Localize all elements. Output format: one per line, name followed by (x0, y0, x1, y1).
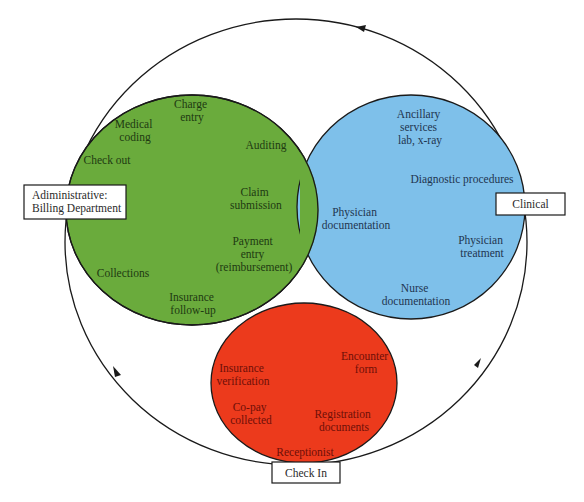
label-auditing: Auditing (246, 139, 287, 152)
label-diagnostic-procedures: Diagnostic procedures (410, 173, 514, 186)
label-physician-treatment: Physician treatment (458, 234, 506, 259)
administrative-box: Adiministrative: Billing Department (24, 185, 126, 219)
arrow-left-icon (113, 366, 121, 377)
label-medical-coding: Medical coding (115, 118, 156, 144)
arrow-right-icon (474, 358, 481, 368)
label-receptionist: Receptionist (276, 446, 334, 459)
label-check-out: Check out (84, 154, 132, 166)
check-in-box-label: Check In (285, 467, 327, 479)
label-collections: Collections (97, 267, 150, 279)
label-insurance-follow-up: Insurance follow-up (169, 291, 217, 317)
administrative-box-label: Adiministrative: Billing Department (32, 189, 122, 215)
revenue-cycle-diagram: Charge entry Medical coding Check out Au… (0, 0, 584, 502)
label-co-pay-collected: Co-pay collected (230, 401, 272, 426)
clinical-box: Clinical (496, 193, 565, 215)
arrow-top-icon (356, 25, 366, 32)
label-insurance-verification: Insurance verification (216, 362, 269, 387)
check-in-box: Check In (272, 462, 340, 483)
label-ancillary-services: Ancillary services lab, x-ray (397, 108, 443, 147)
clinical-box-label: Clinical (512, 198, 548, 210)
label-registration-documents: Registration documents (314, 408, 373, 433)
